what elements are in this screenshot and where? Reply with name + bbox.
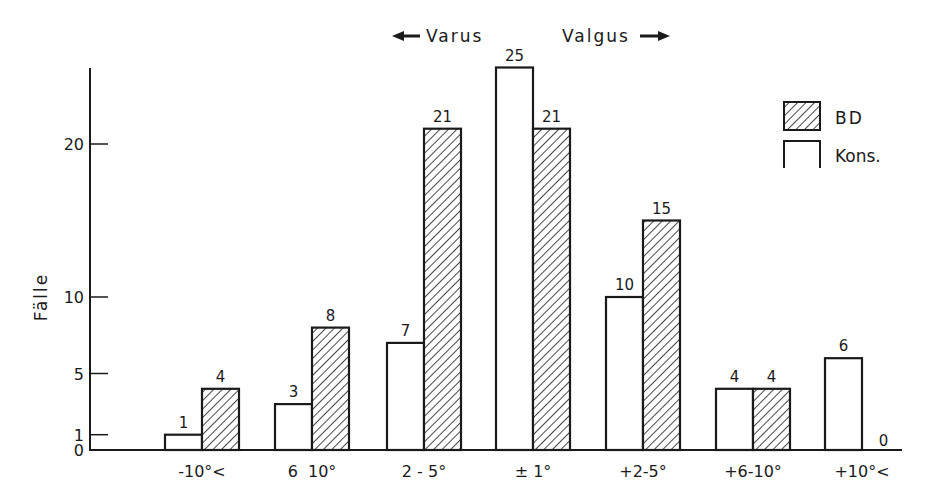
x-category-label: +6-10° (724, 462, 782, 481)
bar-value-kons: 7 (401, 322, 411, 340)
x-category-label: 2 - 5° (402, 462, 446, 481)
bar-kons (275, 404, 312, 450)
bar-group: 721 (387, 108, 461, 450)
bar-value-kons: 3 (289, 383, 299, 401)
bar-bd (424, 129, 461, 450)
bar-kons (825, 358, 862, 450)
valgus-label: Valgus (562, 26, 630, 46)
y-axis-ticks: 0151020 (64, 135, 108, 460)
bar-value-kons: 6 (839, 337, 849, 355)
bar-group: 14 (165, 368, 239, 450)
bar-value-bd: 8 (326, 307, 336, 325)
bar-value-bd: 4 (216, 368, 226, 386)
bar-value-kons: 10 (615, 276, 634, 294)
y-tick-label: 20 (64, 135, 84, 154)
arrow-right-icon (640, 31, 670, 41)
x-category-label: 6 10° (288, 462, 337, 481)
direction-annotation: Varus Valgus (392, 26, 670, 46)
legend-label-kons: Kons. (835, 146, 881, 166)
bar-bd (753, 389, 790, 450)
bar-group: 44 (716, 368, 790, 450)
bar-bd (202, 389, 239, 450)
y-tick-label: 1 (74, 426, 84, 445)
bar-group: 38 (275, 307, 349, 450)
bar-group: 2521 (496, 47, 570, 451)
legend-swatch-bd (784, 102, 820, 130)
bar-group: 60 (825, 337, 888, 450)
y-tick-label: 10 (64, 288, 84, 307)
bar-chart: 0151020 1438721252110154460 -10°<6 10°2 … (0, 0, 930, 502)
x-category-label: +10°< (834, 462, 889, 481)
bar-kons (496, 68, 533, 451)
varus-label: Varus (426, 26, 483, 46)
bar-groups: 1438721252110154460 (165, 47, 888, 451)
legend-label-bd: BD (835, 108, 864, 128)
bar-kons (716, 389, 753, 450)
bar-kons (387, 343, 424, 450)
bar-value-bd: 21 (542, 108, 561, 126)
arrow-left-icon (392, 31, 420, 41)
bar-value-kons: 4 (730, 368, 740, 386)
y-axis-title: Fälle (31, 273, 51, 322)
y-tick-label: 5 (74, 365, 84, 384)
bar-value-bd: 0 (879, 432, 889, 450)
bar-bd (533, 129, 570, 450)
bar-value-bd: 21 (433, 108, 452, 126)
legend-swatch-kons (784, 141, 820, 168)
legend: BD Kons. (784, 102, 881, 168)
bar-bd (643, 221, 680, 451)
bar-value-kons: 25 (505, 47, 524, 65)
bar-value-bd: 4 (767, 368, 777, 386)
x-category-label: +2-5° (619, 462, 667, 481)
x-axis-labels: -10°<6 10°2 - 5°± 1°+2-5°+6-10°+10°< (178, 462, 889, 481)
bar-group: 1015 (606, 200, 680, 451)
bar-value-kons: 1 (179, 414, 189, 432)
x-category-label: ± 1° (515, 462, 552, 481)
bar-bd (312, 328, 349, 450)
bar-kons (606, 297, 643, 450)
bar-kons (165, 435, 202, 450)
bar-value-bd: 15 (652, 200, 671, 218)
x-category-label: -10°< (178, 462, 226, 481)
